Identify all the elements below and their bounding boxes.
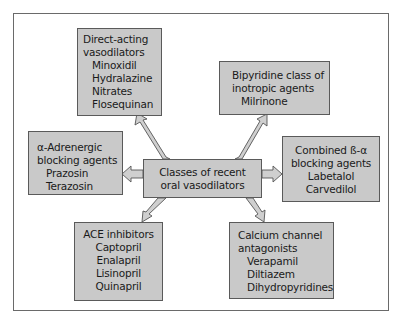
node-title: blocking agents <box>283 157 379 170</box>
drug-item: Prazosin <box>37 167 122 180</box>
node-title: α-Adrenergic <box>37 141 122 154</box>
node-title: inotropic agents <box>232 82 329 95</box>
drug-item: Labetalol <box>283 170 379 183</box>
drug-item: Diltiazem <box>238 268 333 281</box>
drug-item: Flosequinan <box>83 98 161 111</box>
arrow-to-alpha-adrenergic <box>122 166 143 182</box>
node-ace-inhibitors: ACE inhibitors Captopril Enalapril Lisin… <box>74 222 163 301</box>
drug-item: Dihydropyridines <box>238 281 333 294</box>
drug-item: Terazosin <box>37 180 122 193</box>
arrow-to-direct-acting <box>135 113 170 159</box>
center-title: Classes of recent <box>144 166 261 179</box>
drug-item: Hydralazine <box>83 72 161 85</box>
arrow-to-combined-beta-alpha <box>262 166 282 182</box>
node-bipyridine-inotropic-agents: Bipyridine class of inotropic agents Mil… <box>219 61 330 115</box>
drug-item: Minoxidil <box>83 59 161 72</box>
arrow-to-bipyridine <box>235 114 267 159</box>
node-title: antagonists <box>238 242 333 255</box>
arrow-to-calcium-channel <box>246 198 265 222</box>
drug-item: Lisinopril <box>75 267 162 280</box>
drug-item: Milrinone <box>232 95 329 108</box>
arrow-to-ace-inhibitors <box>142 198 166 222</box>
node-combined-beta-alpha-blocking-agents: Combined ß-α blocking agents Labetalol C… <box>282 136 380 202</box>
drug-item: Captopril <box>75 241 162 254</box>
node-title: vasodilators <box>83 46 161 59</box>
node-title: Direct-acting <box>83 33 161 46</box>
drug-item: Enalapril <box>75 254 162 267</box>
node-calcium-channel-antagonists: Calcium channel antagonists Verapamil Di… <box>229 222 334 299</box>
node-direct-acting-vasodilators: Direct-acting vasodilators Minoxidil Hyd… <box>77 28 162 116</box>
node-title: Calcium channel <box>238 229 333 242</box>
node-title: ACE inhibitors <box>75 228 162 241</box>
node-title: blocking agents <box>37 154 122 167</box>
drug-item: Quinapril <box>75 280 162 293</box>
node-title: Bipyridine class of <box>232 69 329 82</box>
drug-item: Verapamil <box>238 255 333 268</box>
drug-item: Carvedilol <box>283 183 379 196</box>
node-title: Combined ß-α <box>283 144 379 157</box>
center-title: oral vasodilators <box>144 179 261 192</box>
drug-item: Nitrates <box>83 85 161 98</box>
node-center-classes-of-oral-vasodilators: Classes of recent oral vasodilators <box>143 159 262 198</box>
node-alpha-adrenergic-blocking-agents: α-Adrenergic blocking agents Prazosin Te… <box>28 131 123 195</box>
